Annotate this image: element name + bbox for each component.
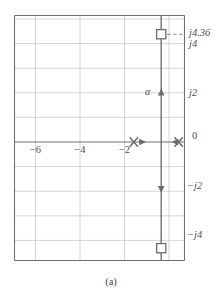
imag-tick-j4: j4 (189, 39, 197, 50)
real-tick-minus-2: −2 (119, 145, 130, 156)
figure-caption: (a) (0, 276, 222, 287)
design-point-lower (157, 244, 166, 253)
arrow-right-icon (139, 139, 146, 146)
asymptote-alpha-label: α (145, 87, 150, 97)
root-locus-figure: α −6 −4 −2 j4.36 j4 j2 0 −j2 −j4 (a) (0, 0, 222, 304)
plot-area: α (14, 15, 185, 261)
grid-lines (14, 15, 185, 261)
design-point-upper (157, 30, 166, 39)
arrow-up-icon (158, 89, 165, 96)
real-tick-minus-6: −6 (30, 145, 41, 156)
real-tick-minus-4: −4 (74, 145, 85, 156)
arrow-down-icon (158, 186, 165, 193)
imag-tick-zero: 0 (192, 131, 197, 142)
imag-tick-minus-j2: −j2 (187, 181, 202, 192)
imag-tick-minus-j4: −j4 (187, 230, 202, 241)
plot-graphics (14, 15, 185, 261)
design-point-value-label: j4.36 (189, 28, 210, 39)
imag-tick-j2: j2 (189, 88, 197, 99)
plot-frame (15, 16, 185, 261)
